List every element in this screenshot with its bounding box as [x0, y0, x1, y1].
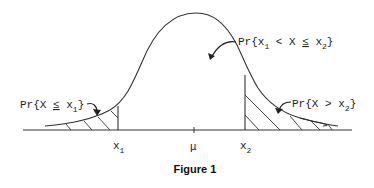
axis-label-x1: x1: [113, 140, 125, 155]
normal-distribution-figure: Pr{X ≤ x1} Pr{x1 < X ≤ x2} Pr{X > x2} x1…: [0, 0, 374, 188]
label-pr-right-tail: Pr{X > x2}: [292, 98, 356, 113]
right-arrowhead-icon: [275, 108, 283, 114]
middle-arrowhead-icon: [208, 53, 215, 60]
axis-label-x2: x2: [240, 140, 252, 155]
figure-caption: Figure 1: [174, 163, 217, 175]
bell-curve: [45, 13, 327, 126]
label-pr-left-tail: Pr{X ≤ x1}: [20, 99, 84, 114]
bell-curve-diagram: Pr{X ≤ x1} Pr{x1 < X ≤ x2} Pr{X > x2} x1…: [0, 0, 374, 188]
label-pr-middle: Pr{x1 < X ≤ x2}: [238, 36, 333, 51]
axis-label-mu: μ: [190, 141, 197, 153]
middle-arrow: [212, 42, 236, 56]
